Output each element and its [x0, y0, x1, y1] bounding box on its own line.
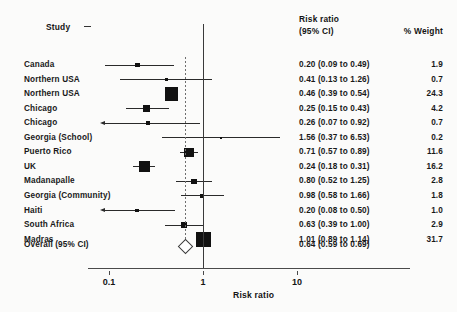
ci-arrow-left-icon — [100, 208, 105, 212]
weight-value: 24.3 — [426, 89, 443, 98]
column-header-risk-ratio: Risk ratio — [299, 14, 339, 24]
study-label: Northern USA — [24, 75, 80, 84]
risk-ratio-value: 0.63 (0.39 to 1.00) — [299, 220, 370, 229]
weight-value: 1.0 — [431, 206, 443, 215]
study-marker — [184, 148, 194, 158]
weight-value: 1.9 — [431, 60, 443, 69]
risk-ratio-value: 0.46 (0.39 to 0.54) — [299, 89, 370, 98]
risk-ratio-value: 0.80 (0.52 to 1.25) — [299, 176, 370, 185]
risk-ratio-value: 0.26 (0.07 to 0.92) — [299, 118, 370, 127]
confidence-interval-line — [198, 239, 208, 240]
confidence-interval-line — [104, 123, 200, 124]
risk-ratio-value: 0.20 (0.08 to 0.50) — [299, 206, 370, 215]
study-marker — [200, 194, 205, 199]
study-label: Canada — [24, 60, 54, 69]
risk-ratio-value: 1.56 (0.37 to 6.53) — [299, 133, 370, 142]
column-header-study: Study — [46, 22, 70, 32]
weight-value: 0.7 — [431, 118, 443, 127]
study-marker — [220, 137, 222, 139]
confidence-interval-line — [181, 195, 224, 196]
x-axis-tick-label: 1 — [200, 277, 205, 287]
study-header-rule — [84, 26, 91, 27]
study-marker — [191, 179, 196, 184]
weight-value: 0.7 — [431, 75, 443, 84]
ci-arrow-left-icon — [100, 121, 105, 125]
risk-ratio-value: 0.24 (0.18 to 0.31) — [299, 162, 370, 171]
x-axis-tick — [203, 271, 204, 275]
study-label: Chicago — [24, 118, 57, 127]
x-axis-tick — [297, 271, 298, 275]
study-marker — [181, 222, 186, 227]
weight-value: 2.8 — [431, 176, 443, 185]
study-marker — [146, 121, 149, 124]
risk-ratio-value: 0.20 (0.09 to 0.49) — [299, 60, 370, 69]
confidence-interval-line — [126, 108, 169, 109]
weight-value: 4.2 — [431, 104, 443, 113]
weight-value: 31.7 — [426, 235, 443, 244]
column-header-weight: % Weight — [404, 26, 443, 36]
overall-summary-diamond — [178, 238, 194, 254]
x-axis-tick-label: 10 — [292, 277, 302, 287]
confidence-interval-line — [120, 79, 213, 80]
study-label: UK — [24, 162, 36, 171]
study-marker — [165, 87, 178, 100]
risk-ratio-value: 0.98 (0.58 to 1.66) — [299, 191, 370, 200]
study-marker — [165, 78, 168, 81]
study-label: Haiti — [24, 206, 43, 215]
x-axis-line — [88, 268, 410, 269]
column-header-confidence-interval: (95% CI) — [299, 26, 334, 36]
confidence-interval-line — [105, 65, 174, 66]
study-label: Chicago — [24, 104, 57, 113]
confidence-interval-line — [165, 94, 178, 95]
weight-value: 2.9 — [431, 220, 443, 229]
confidence-interval-line — [180, 152, 198, 153]
study-marker — [196, 232, 211, 247]
weight-value: 1.8 — [431, 191, 443, 200]
study-marker — [135, 63, 140, 68]
study-marker — [143, 105, 149, 111]
study-label: Georgia (School) — [24, 133, 92, 142]
confidence-interval-line — [104, 210, 175, 211]
x-axis-tick-label: 0.1 — [103, 277, 116, 287]
study-label: Georgia (Community) — [24, 191, 111, 200]
risk-ratio-value: 0.71 (0.57 to 0.89) — [299, 147, 370, 156]
null-reference-line — [203, 24, 204, 268]
study-label: Puerto Rico — [24, 147, 72, 156]
confidence-interval-line — [162, 137, 279, 138]
confidence-interval-line — [133, 166, 155, 167]
study-marker — [135, 209, 139, 213]
study-label: Northern USA — [24, 89, 80, 98]
study-marker — [139, 161, 150, 172]
study-label: South Africa — [24, 220, 74, 229]
weight-value: 0.2 — [431, 133, 443, 142]
risk-ratio-value: 0.25 (0.15 to 0.43) — [299, 104, 370, 113]
study-label: Madanapalle — [24, 176, 75, 185]
risk-ratio-value: 0.41 (0.13 to 1.26) — [299, 75, 370, 84]
weight-value: 16.2 — [426, 162, 443, 171]
overall-label: Overall (95% CI) — [24, 240, 89, 249]
forest-plot-figure: Study Risk ratio (95% CI) % Weight Canad… — [0, 0, 457, 312]
confidence-interval-line — [176, 181, 212, 182]
confidence-interval-line — [165, 225, 203, 226]
overall-risk-ratio-value: 0.64 (0.59 to 0.69) — [299, 240, 370, 249]
x-axis-tick — [109, 271, 110, 275]
overall-estimate-line — [185, 57, 186, 245]
weight-value: 11.6 — [427, 147, 443, 156]
x-axis-title: Risk ratio — [233, 290, 274, 300]
